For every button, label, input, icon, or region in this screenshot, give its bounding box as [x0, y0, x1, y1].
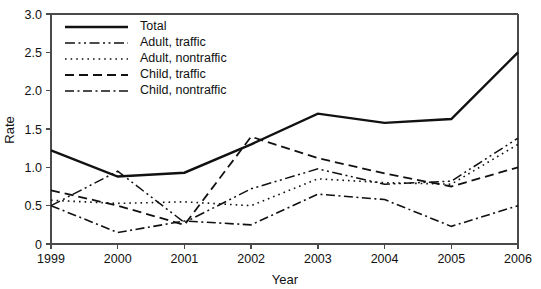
y-tick-label: 0 [35, 238, 42, 252]
series-line-adult-nontraffic [51, 144, 518, 205]
legend-label-4: Child, nontraffic [140, 83, 227, 97]
y-axis-ticks: 00.51.01.52.02.53.0 [25, 8, 51, 252]
y-axis-title: Rate [2, 116, 17, 143]
x-tick-label: 2002 [237, 252, 265, 266]
x-axis-title: Year [272, 272, 299, 287]
legend-label-2: Adult, nontraffic [140, 51, 227, 65]
x-tick-label: 2003 [304, 252, 332, 266]
series-line-total [51, 52, 518, 176]
x-tick-label: 2006 [504, 252, 532, 266]
legend-label-3: Child, traffic [140, 67, 206, 81]
y-tick-label: 1.0 [25, 161, 42, 175]
x-tick-label: 1999 [37, 252, 65, 266]
y-tick-label: 2.5 [25, 46, 42, 60]
legend-label-1: Adult, traffic [140, 35, 206, 49]
x-axis-ticks: 19992000200120022003200420052006 [37, 244, 532, 266]
line-chart: 00.51.01.52.02.53.0 19992000200120022003… [0, 0, 541, 289]
x-tick-label: 2005 [437, 252, 465, 266]
x-tick-label: 2004 [371, 252, 399, 266]
x-tick-label: 2001 [171, 252, 199, 266]
series-layer [51, 52, 518, 232]
x-tick-label: 2000 [104, 252, 132, 266]
y-tick-label: 0.5 [25, 199, 42, 213]
chart-legend: TotalAdult, trafficAdult, nontrafficChil… [65, 19, 227, 97]
y-tick-label: 2.0 [25, 84, 42, 98]
y-tick-label: 1.5 [25, 123, 42, 137]
series-line-child-nontraffic [51, 194, 518, 232]
y-tick-label: 3.0 [25, 8, 42, 22]
chart-canvas: 00.51.01.52.02.53.0 19992000200120022003… [0, 0, 541, 289]
legend-label-0: Total [140, 19, 166, 33]
